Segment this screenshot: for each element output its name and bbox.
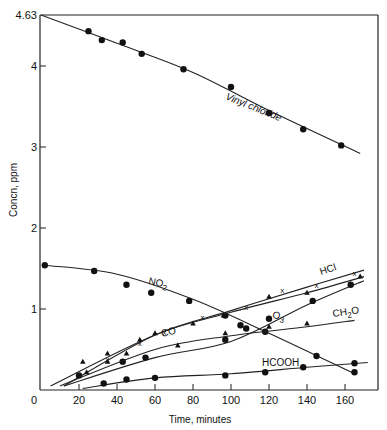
series-hcooh <box>83 360 368 388</box>
data-point <box>152 330 158 335</box>
data-point <box>300 126 306 132</box>
plot-frame <box>40 15 378 390</box>
series-co <box>51 274 365 386</box>
y-axis <box>40 66 46 309</box>
x-tick-label: 0 <box>31 394 37 406</box>
data-point <box>85 28 91 34</box>
data-point <box>222 337 228 343</box>
data-point <box>42 262 48 268</box>
data-point: x <box>315 281 319 290</box>
series-hcl: xxxxxxxx <box>64 269 364 386</box>
data-point <box>223 330 229 335</box>
data-point: x <box>201 313 205 322</box>
label-vinyl-chloride: Vinyl chloride <box>224 91 284 124</box>
data-point <box>310 298 316 304</box>
y-axis-label: Concn, ppm <box>8 163 19 217</box>
x-axis-label: Time, minutes <box>169 414 231 425</box>
data-point: x <box>280 286 284 295</box>
data-point <box>123 282 129 288</box>
x-tick-label: 120 <box>260 394 278 406</box>
label-co: CO <box>160 325 177 339</box>
data-point <box>300 364 306 370</box>
x-tick-label: 100 <box>222 394 240 406</box>
data-point: x <box>353 269 357 278</box>
x-tick-label: 160 <box>336 394 354 406</box>
x-tick-label: 60 <box>149 394 161 406</box>
data-point <box>243 325 249 331</box>
x-tick-label: 80 <box>187 394 199 406</box>
label-hcooh: HCOOH <box>262 357 299 368</box>
data-point <box>266 324 272 329</box>
data-point <box>338 142 344 148</box>
label-o3: O3 <box>271 309 286 325</box>
data-point <box>139 51 145 57</box>
data-point <box>180 66 186 72</box>
data-point <box>91 268 97 274</box>
data-point <box>351 369 357 375</box>
data-point <box>357 274 363 279</box>
data-point <box>222 372 228 378</box>
data-point <box>142 354 148 360</box>
series-o3 <box>64 281 364 386</box>
label-hcl: HCl <box>318 261 337 277</box>
label-ch2o: CH2O <box>332 304 361 322</box>
data-point <box>80 359 86 364</box>
chart: 4.63 4 3 2 1 Concn, ppm 0 20 40 60 80 10… <box>0 0 387 430</box>
data-point <box>304 321 310 326</box>
y-tick-label: 4 <box>31 60 37 72</box>
data-point <box>123 376 129 382</box>
data-point <box>186 298 192 304</box>
x-tick-label: 20 <box>73 394 85 406</box>
y-tick-label: 1 <box>31 303 37 315</box>
x-tick-label: 140 <box>298 394 316 406</box>
data-point <box>101 380 107 386</box>
data-point <box>105 351 111 356</box>
data-point <box>99 37 105 43</box>
data-point <box>148 290 154 296</box>
series-vinyl-chloride <box>41 15 360 154</box>
y-tick-label: 4.63 <box>16 9 37 21</box>
y-tick-label: 3 <box>31 141 37 153</box>
data-point: x <box>244 303 248 312</box>
x-tick-label: 40 <box>111 394 123 406</box>
data-point <box>152 375 158 381</box>
data-point <box>228 84 234 90</box>
y-tick-label: 2 <box>31 222 37 234</box>
data-point <box>348 282 354 288</box>
data-point <box>262 369 268 375</box>
series-layer: xxxxxxxx <box>41 15 368 388</box>
data-point <box>120 39 126 45</box>
data-point <box>237 322 243 328</box>
data-point <box>313 353 319 359</box>
data-point <box>266 294 272 299</box>
data-point <box>351 360 357 366</box>
x-axis <box>79 384 345 390</box>
